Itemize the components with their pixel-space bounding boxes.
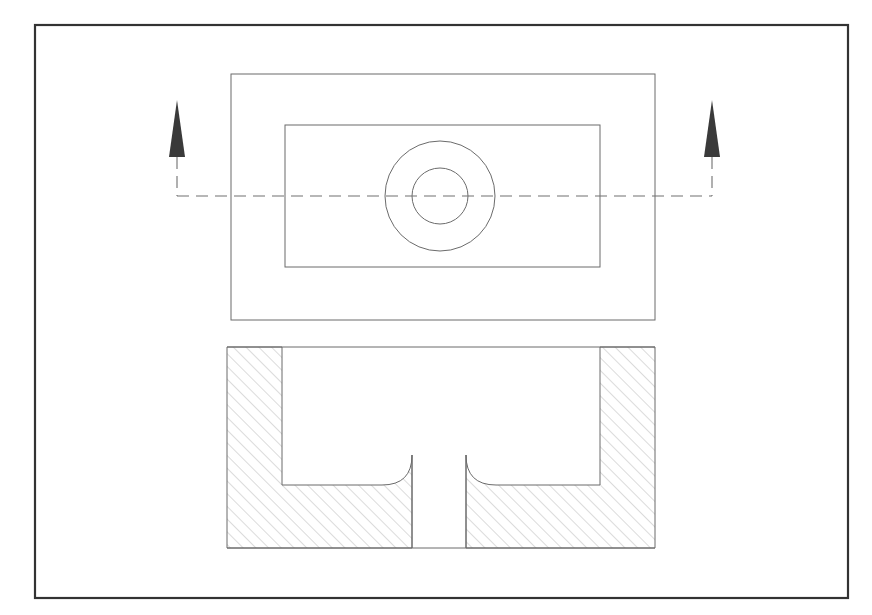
drawing-sheet (0, 0, 872, 615)
sheet-background (0, 0, 872, 615)
drawing-canvas (0, 0, 872, 615)
